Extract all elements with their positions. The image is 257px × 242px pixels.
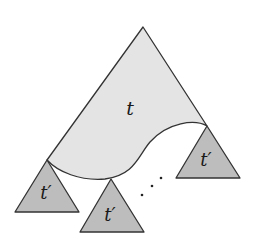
big-tree-label: t (126, 97, 134, 119)
subtree-right-label: t′ (200, 149, 211, 170)
tree-diagram: t t′ t′ t′ (0, 0, 257, 242)
ellipsis-dots (141, 177, 163, 197)
subtree-middle: t′ (80, 179, 144, 232)
subtree-right: t′ (176, 126, 240, 178)
subtree-left-label: t′ (40, 182, 51, 203)
subtree-middle-label: t′ (104, 204, 115, 225)
